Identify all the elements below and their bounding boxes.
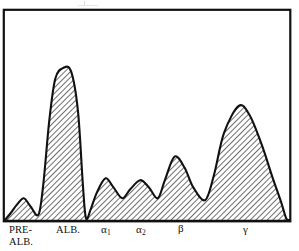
electrophoresis-tracing-chart [0, 0, 299, 251]
axis-label-gamma-glyph: γ [243, 223, 248, 235]
axis-label-alpha-2-subscript: 2 [142, 228, 146, 237]
axis-label-pre-albumin-line1: PRE- [9, 224, 32, 235]
axis-label-alpha-1: α1 [101, 224, 111, 238]
figure-root: PRE- ALB. ALB. α1 α2 β γ [0, 0, 299, 251]
axis-label-pre-albumin: PRE- ALB. [9, 224, 33, 247]
axis-label-albumin-text: ALB. [56, 224, 80, 235]
axis-label-beta-glyph: β [178, 222, 184, 234]
axis-label-alpha-2: α2 [136, 224, 146, 238]
axis-label-albumin: ALB. [56, 224, 80, 236]
axis-label-alpha-1-subscript: 1 [107, 228, 111, 237]
axis-label-beta: β [178, 223, 184, 235]
axis-label-band: PRE- ALB. ALB. α1 α2 β γ [0, 222, 299, 251]
axis-label-pre-albumin-line2: ALB. [9, 236, 33, 248]
axis-label-gamma: γ [243, 224, 248, 236]
